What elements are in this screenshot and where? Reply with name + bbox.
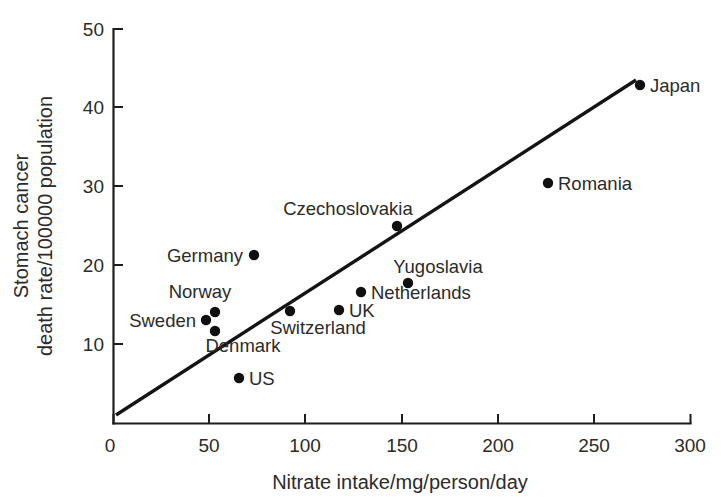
y-tick-label-40: 40	[83, 97, 104, 118]
y-axis-title-line2: death rate/100000 population	[34, 96, 56, 356]
data-point-uk[interactable]	[334, 305, 344, 315]
data-point-netherlands[interactable]	[356, 287, 366, 297]
data-point-norway[interactable]	[210, 307, 220, 317]
data-point-japan[interactable]	[635, 80, 645, 90]
point-label-germany: Germany	[167, 245, 244, 266]
point-label-netherlands: Netherlands	[371, 282, 471, 303]
data-point-us[interactable]	[234, 373, 244, 383]
point-label-denmark: Denmark	[205, 335, 281, 356]
point-label-czechoslovakia: Czechoslovakia	[283, 198, 413, 219]
y-axis-title-line1: Stomach cancer	[10, 153, 32, 298]
x-tick-label-300: 300	[674, 435, 706, 456]
data-point-labels-group: Germany Norway Sweden Denmark US Switzer…	[129, 75, 700, 389]
data-point-germany[interactable]	[249, 250, 259, 260]
y-tick-group: 50 40 30 20 10	[83, 19, 123, 355]
x-tick-label-0: 0	[105, 435, 116, 456]
x-tick-label-50: 50	[198, 435, 219, 456]
point-label-japan: Japan	[650, 75, 700, 96]
point-label-yugoslavia: Yugoslavia	[393, 256, 483, 277]
x-tick-label-150: 150	[386, 435, 418, 456]
y-tick-label-10: 10	[83, 334, 104, 355]
x-tick-label-100: 100	[289, 435, 321, 456]
data-point-czechoslovakia[interactable]	[392, 221, 402, 231]
y-tick-label-30: 30	[83, 176, 104, 197]
data-point-switzerland[interactable]	[285, 306, 295, 316]
point-label-romania: Romania	[558, 173, 633, 194]
x-axis-title: Nitrate intake/mg/person/day	[272, 471, 528, 493]
data-point-romania[interactable]	[543, 178, 553, 188]
chart-canvas: 50 40 30 20 10 0 50 100 150 200 250 300	[0, 0, 721, 500]
point-label-norway: Norway	[169, 281, 232, 302]
point-label-uk: UK	[349, 300, 375, 321]
point-label-sweden: Sweden	[129, 310, 196, 331]
x-tick-label-200: 200	[482, 435, 514, 456]
y-tick-label-20: 20	[83, 255, 104, 276]
point-label-us: US	[249, 368, 275, 389]
scatter-plot-figure: 50 40 30 20 10 0 50 100 150 200 250 300	[0, 0, 721, 500]
y-tick-label-50: 50	[83, 19, 104, 40]
x-tick-group: 0 50 100 150 200 250 300	[105, 414, 706, 456]
x-tick-label-250: 250	[578, 435, 610, 456]
data-point-sweden[interactable]	[201, 315, 211, 325]
